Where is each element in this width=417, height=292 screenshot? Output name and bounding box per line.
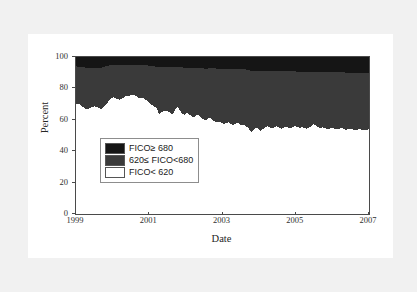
y-axis-title: Percent (39, 73, 50, 163)
stacked-area-chart (76, 57, 369, 214)
y-axis: 020406080100 (28, 56, 73, 213)
x-axis: 19992001200320052007 (75, 214, 368, 230)
x-tick-mark (222, 212, 223, 215)
x-tick-mark (148, 212, 149, 215)
y-tick-label: 80 (60, 83, 69, 92)
x-tick-label: 2007 (360, 216, 377, 225)
legend-item-label: FICO< 620 (129, 168, 173, 177)
figure-panel: 020406080100 Percent 1999200120032005200… (28, 34, 393, 258)
x-tick-mark (75, 212, 76, 215)
legend-item: FICO≥ 680 (105, 143, 193, 154)
legend-item: FICO< 620 (105, 167, 193, 178)
x-tick-label: 1999 (67, 216, 84, 225)
y-tick-label: 60 (60, 115, 69, 124)
legend-swatch-icon (105, 143, 125, 154)
y-tick-label: 100 (55, 52, 68, 61)
x-tick-mark (368, 212, 369, 215)
x-tick-label: 2005 (286, 216, 303, 225)
chart-legend: FICO≥ 680620≤ FICO<680FICO< 620 (100, 138, 199, 183)
legend-item-label: 620≤ FICO<680 (129, 156, 193, 165)
legend-item-label: FICO≥ 680 (129, 144, 173, 153)
figure-root: 020406080100 Percent 1999200120032005200… (0, 0, 417, 292)
x-tick-mark (295, 212, 296, 215)
legend-item: 620≤ FICO<680 (105, 155, 193, 166)
x-tick-label: 2003 (213, 216, 230, 225)
x-tick-label: 2001 (140, 216, 157, 225)
legend-swatch-icon (105, 155, 125, 166)
caption-strip (10, 281, 340, 289)
y-tick-label: 40 (60, 146, 69, 155)
legend-swatch-icon (105, 167, 125, 178)
x-axis-title: Date (75, 233, 368, 244)
y-tick-label: 20 (60, 177, 69, 186)
plot-area (75, 56, 370, 215)
